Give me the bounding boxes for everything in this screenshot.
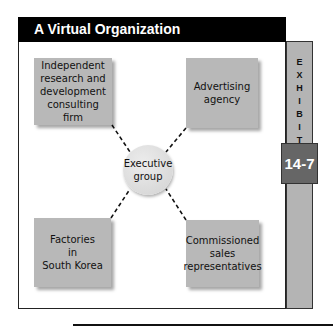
node-advertising-agency: Advertising agency <box>186 58 258 128</box>
exhibit-label: E X H I B I T <box>287 56 312 147</box>
exhibit-letter: I <box>298 95 301 108</box>
exhibit-letter: I <box>298 121 301 134</box>
node-factories-south-korea: Factories in South Korea <box>34 218 111 287</box>
exhibit-letter: H <box>296 82 303 95</box>
node-sales-representatives: Commissioned sales representatives <box>186 220 259 287</box>
bottom-rule <box>73 324 333 326</box>
exhibit-number-badge: 14-7 <box>281 143 318 184</box>
exhibit-letter: B <box>296 108 303 121</box>
exhibit-letter: X <box>296 69 302 82</box>
executive-group-node: Executive group <box>123 145 173 195</box>
node-rd-consulting-firm: Independent research and development con… <box>34 58 112 125</box>
exhibit-letter: E <box>296 56 302 69</box>
